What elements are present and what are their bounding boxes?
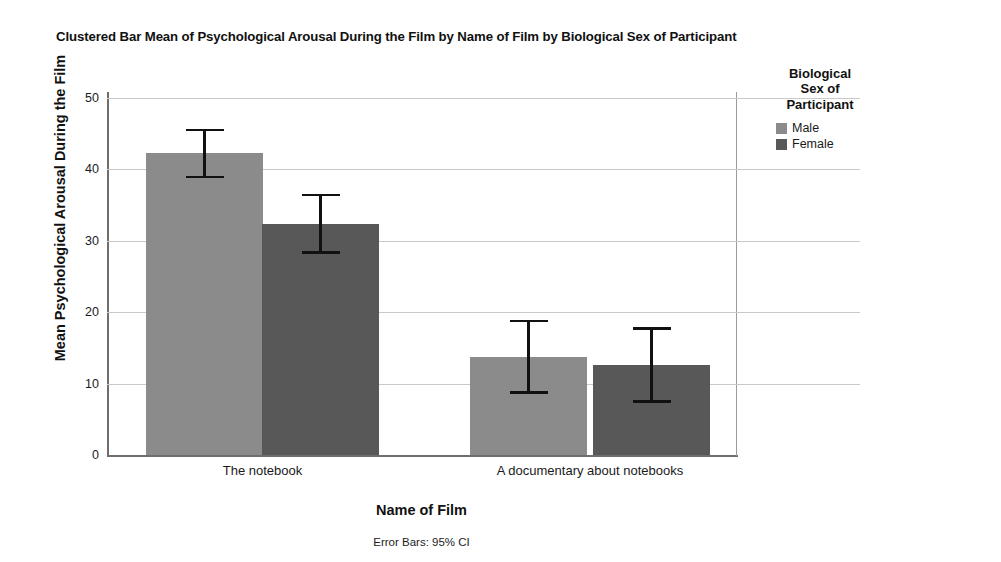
- error-bar-cap-upper: [510, 320, 548, 322]
- error-bar-stem: [319, 194, 321, 254]
- legend-item[interactable]: Female: [776, 137, 914, 152]
- legend-item[interactable]: Male: [776, 121, 914, 136]
- chart-title: Clustered Bar Mean of Psychological Arou…: [56, 29, 956, 44]
- legend: BiologicalSex ofParticipant MaleFemale: [742, 66, 914, 153]
- chart-container: Clustered Bar Mean of Psychological Arou…: [0, 0, 1001, 562]
- bar: [146, 153, 263, 455]
- error-bar-cap-upper: [302, 194, 340, 196]
- legend-title: BiologicalSex ofParticipant: [756, 66, 884, 112]
- x-axis-tick-label: The notebook: [103, 463, 423, 478]
- x-axis-line: [107, 455, 738, 457]
- error-bar-cap-upper: [186, 129, 224, 131]
- y-axis-tick-label: 0: [55, 449, 99, 462]
- error-bar-cap-lower: [633, 400, 671, 402]
- error-bar: [146, 129, 263, 178]
- legend-swatch-icon: [776, 139, 787, 150]
- x-axis-tick-label: A documentary about notebooks: [430, 463, 750, 478]
- error-bar-stem: [203, 129, 205, 178]
- error-bar-cap-lower: [302, 251, 340, 253]
- error-bar-stem: [650, 327, 652, 403]
- legend-item-label: Male: [792, 122, 819, 135]
- y-axis-title: Mean Psychological Arousal During the Fi…: [52, 0, 68, 418]
- legend-items: MaleFemale: [776, 121, 914, 152]
- error-bar: [262, 194, 379, 254]
- legend-swatch-icon: [776, 123, 787, 134]
- error-bar: [470, 320, 587, 394]
- error-bar-cap-upper: [633, 327, 671, 329]
- error-bar-cap-lower: [186, 176, 224, 178]
- plot-area: [107, 98, 736, 455]
- error-bar: [593, 327, 710, 403]
- x-axis-title: Name of Film: [107, 502, 736, 518]
- error-bar-stem: [527, 320, 529, 394]
- plot-frame-right-edge: [736, 92, 737, 456]
- error-bar-footnote: Error Bars: 95% CI: [107, 536, 736, 548]
- error-bar-cap-lower: [510, 391, 548, 393]
- bar: [262, 224, 379, 455]
- legend-item-label: Female: [792, 138, 834, 151]
